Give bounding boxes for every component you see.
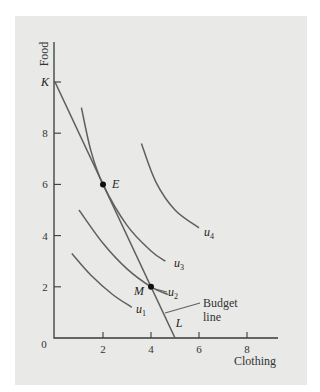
- y-tick-label: 4: [42, 230, 48, 242]
- point-label-k: K: [40, 75, 50, 89]
- point-label-e: E: [111, 177, 120, 191]
- x-tick-label: 6: [196, 343, 202, 355]
- y-tick-label: 2: [42, 281, 48, 293]
- indifference-curve-chart: 2468K24680ClothingFoodLBudgetlineu1u2u3u…: [0, 0, 320, 392]
- point-e: [100, 181, 106, 187]
- x-tick-label: 4: [148, 343, 154, 355]
- y-tick-label: 8: [42, 127, 48, 139]
- point-m: [148, 284, 154, 290]
- budget-line-label: line: [203, 310, 221, 324]
- x-tick-label: 2: [100, 343, 106, 355]
- y-tick-label: 6: [42, 178, 48, 190]
- chart-background-panel: [15, 16, 307, 385]
- y-axis-label: Food: [37, 42, 51, 67]
- x-axis-label: Clothing: [234, 354, 276, 368]
- origin-label: 0: [41, 338, 47, 350]
- budget-line-label: Budget: [203, 296, 238, 310]
- point-label-m: M: [133, 284, 145, 298]
- point-label-l: L: [175, 316, 183, 330]
